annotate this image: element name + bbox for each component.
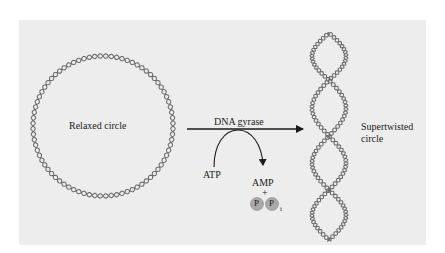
phosphate-symbol-1: P <box>254 198 259 209</box>
supertwisted-label-line1: Supertwisted <box>361 121 413 132</box>
phosphate-symbol-2: P <box>269 198 274 209</box>
atp-to-amp-arrow <box>214 130 263 167</box>
plus-sign: + <box>262 187 268 198</box>
supertwisted-label-line2: circle <box>361 133 383 144</box>
phosphate-subscript: i <box>280 204 282 215</box>
supertwisted-dna-icon <box>310 33 348 241</box>
atp-label: ATP <box>203 169 221 180</box>
relaxed-circle-label: Relaxed circle <box>69 120 126 131</box>
dna-gyrase-label: DNA gyrase <box>214 116 264 127</box>
